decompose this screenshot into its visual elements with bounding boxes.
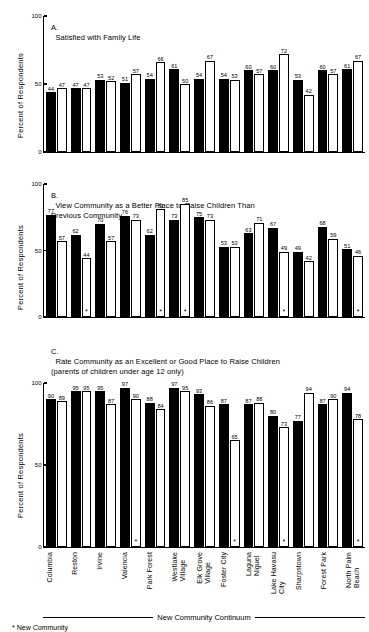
bar-new-community: 95 bbox=[95, 391, 105, 547]
bar-new-community: 87 bbox=[219, 404, 229, 547]
bar-group: 6371 bbox=[242, 184, 267, 317]
bar-value-label: 51 bbox=[122, 76, 128, 83]
bar-group: 8790 bbox=[316, 383, 341, 547]
bar-new-community: 61 bbox=[342, 69, 352, 152]
bar-value-label: 88 bbox=[147, 396, 153, 403]
bar-value-label: 87 bbox=[319, 398, 325, 405]
bar-value-label: 67 bbox=[355, 54, 361, 61]
bar-group: 9089 bbox=[44, 383, 69, 547]
bar-conventional-community: 73 bbox=[131, 220, 141, 317]
bar-value-label: 90 bbox=[330, 393, 336, 400]
bar-group: 5352 bbox=[93, 16, 118, 152]
bar-value-label: 95 bbox=[182, 385, 188, 392]
bar-group: 6072 bbox=[266, 16, 291, 152]
x-category-label: Reston bbox=[71, 552, 91, 575]
bar-value-label: 61 bbox=[344, 63, 350, 70]
bar-group: 9587 bbox=[93, 383, 118, 547]
bar-value-label: 97 bbox=[171, 381, 177, 388]
bar-group: 6150 bbox=[167, 16, 192, 152]
continuum-rule-left bbox=[43, 617, 153, 618]
panel-c-plot-area: 100 50 0 9089959595879790*88849795938687… bbox=[43, 383, 365, 548]
bar-group: 4747 bbox=[69, 16, 94, 152]
bar-new-community: 53 bbox=[293, 80, 303, 152]
bar-group: 8788 bbox=[242, 383, 267, 547]
significance-star: * bbox=[184, 309, 187, 315]
x-category-label: Forest Park bbox=[320, 552, 340, 589]
bar-conventional-community: 95 bbox=[82, 391, 92, 547]
bar-conventional-community: 73 bbox=[205, 220, 215, 317]
bar-value-label: 73 bbox=[171, 213, 177, 220]
panel-b-y-axis-label: Percent of Respondents bbox=[16, 210, 25, 310]
bar-group: 8884 bbox=[143, 383, 168, 547]
bar-conventional-community: 47 bbox=[82, 88, 92, 152]
bar-value-label: 53 bbox=[221, 240, 227, 247]
footnote: * New Community bbox=[12, 624, 68, 631]
bar-value-label: 53 bbox=[97, 73, 103, 80]
bar-new-community: 62 bbox=[145, 235, 155, 317]
bar-group: 5146* bbox=[340, 184, 365, 317]
x-category-label: North Palm Beach bbox=[345, 552, 365, 588]
bar-conventional-community: 90 bbox=[328, 399, 338, 547]
bar-group: 5453 bbox=[217, 16, 242, 152]
bar-new-community: 97 bbox=[120, 388, 130, 547]
bar-value-label: 70 bbox=[97, 217, 103, 224]
bar-new-community: 76 bbox=[120, 216, 130, 317]
footnote-text: New Community bbox=[17, 624, 68, 631]
bar-value-label: 81 bbox=[157, 203, 163, 210]
bar-group: 5342 bbox=[291, 16, 316, 152]
bar-new-community: 49 bbox=[293, 252, 303, 317]
bar-value-label: 87 bbox=[108, 398, 114, 405]
bar-conventional-community: 49* bbox=[279, 252, 289, 317]
bar-conventional-community: 50 bbox=[180, 84, 190, 152]
bar-new-community: 47 bbox=[71, 88, 81, 152]
x-category-label: Valencia bbox=[121, 552, 141, 579]
panel-b-ytick-100: 100 bbox=[31, 181, 44, 187]
bar-group: 7673 bbox=[118, 184, 143, 317]
bar-group: 7057 bbox=[93, 184, 118, 317]
bar-conventional-community: 88 bbox=[254, 403, 264, 547]
continuum-axis-label: New Community Continuum bbox=[43, 613, 365, 622]
bar-value-label: 95 bbox=[83, 385, 89, 392]
bar-conventional-community: 65* bbox=[230, 440, 240, 547]
panel-c-letter: C. bbox=[51, 347, 59, 356]
bar-value-label: 93 bbox=[196, 388, 202, 395]
x-category-label: Columbia bbox=[46, 552, 66, 582]
bar-group: 4447 bbox=[44, 16, 69, 152]
bar-value-label: 47 bbox=[83, 82, 89, 89]
bar-value-label: 51 bbox=[344, 243, 350, 250]
bar-new-community: 77 bbox=[293, 421, 303, 547]
bar-conventional-community: 94 bbox=[304, 393, 314, 547]
bar-value-label: 95 bbox=[97, 385, 103, 392]
bar-value-label: 50 bbox=[182, 78, 188, 85]
bar-conventional-community: 57 bbox=[328, 74, 338, 152]
bar-value-label: 54 bbox=[147, 72, 153, 79]
bar-value-label: 90 bbox=[48, 393, 54, 400]
x-axis-category-labels: ColumbiaRestonIrvineValenciaPark ForestW… bbox=[43, 552, 367, 612]
bar-value-label: 90 bbox=[133, 393, 139, 400]
bar-value-label: 49 bbox=[281, 245, 287, 252]
bar-value-label: 46 bbox=[355, 249, 361, 256]
bar-group: 4942 bbox=[291, 184, 316, 317]
bar-new-community: 87 bbox=[244, 404, 254, 547]
bar-new-community: 95 bbox=[71, 391, 81, 547]
continuum-rule-right bbox=[255, 617, 365, 618]
bar-value-label: 88 bbox=[256, 396, 262, 403]
x-category-label: Irvine bbox=[96, 552, 116, 570]
significance-star: * bbox=[283, 309, 286, 315]
x-category-label: Lake Havasu City bbox=[270, 552, 290, 594]
bar-new-community: 70 bbox=[95, 224, 105, 317]
panel-b-ytick-50: 50 bbox=[35, 248, 44, 254]
bar-value-label: 42 bbox=[306, 88, 312, 95]
panel-a-plot-area: 100 50 0 4447474753525157546661505467545… bbox=[43, 16, 365, 153]
bar-value-label: 57 bbox=[108, 235, 114, 242]
bar-group: 5157 bbox=[118, 16, 143, 152]
bar-value-label: 77 bbox=[48, 208, 54, 215]
panel-c-ytick-100: 100 bbox=[31, 380, 44, 386]
bar-group: 9790* bbox=[118, 383, 143, 547]
bar-conventional-community: 57 bbox=[106, 241, 116, 317]
bar-conventional-community: 87 bbox=[106, 404, 116, 547]
bar-value-label: 72 bbox=[281, 48, 287, 55]
bar-conventional-community: 84 bbox=[156, 409, 166, 547]
panel-c-y-axis-label: Percent of Respondents bbox=[16, 418, 25, 518]
bar-new-community: 63 bbox=[244, 233, 254, 317]
